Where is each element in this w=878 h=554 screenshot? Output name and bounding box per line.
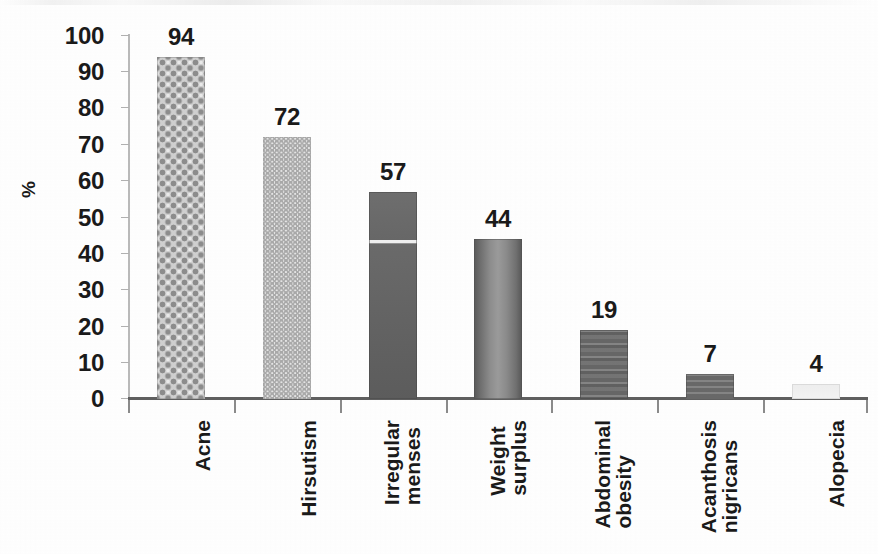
y-tick-60 — [121, 180, 129, 181]
y-label-80: 80 — [50, 94, 104, 122]
x-tick-3 — [446, 400, 448, 413]
y-tick-10 — [121, 362, 129, 363]
y-label-50: 50 — [50, 204, 104, 232]
y-label-70: 70 — [50, 131, 104, 159]
y-tick-20 — [121, 326, 129, 327]
x-tick-0 — [128, 400, 130, 413]
x-tick-1 — [234, 400, 236, 413]
category-label-irregular-menses-line1: Irregular — [380, 420, 403, 505]
bar-hirsutism-fill — [263, 137, 311, 399]
category-label-irregular-menses-line2: menses — [402, 420, 423, 505]
y-axis-title: % — [18, 181, 40, 198]
bar-abdominal-obesity-fill — [580, 330, 628, 399]
y-tick-70 — [121, 144, 129, 145]
category-label-irregular-menses: Irregular menses — [381, 420, 424, 505]
bar-weight-surplus: 44 — [474, 239, 522, 399]
y-label-10: 10 — [50, 349, 104, 377]
y-label-0: 0 — [50, 385, 104, 413]
x-tick-5 — [657, 400, 659, 413]
x-tick-2 — [340, 400, 342, 413]
bar-irregular-menses: 57 — [369, 192, 417, 400]
bar-value-abdominal-obesity: 19 — [591, 296, 617, 324]
x-tick-4 — [551, 400, 553, 413]
x-tick-6 — [763, 400, 765, 413]
bar-irregular-menses-fill — [369, 192, 417, 400]
category-label-acne-line1: Acne — [191, 420, 214, 471]
category-label-weight-surplus-line1: Weight — [486, 426, 509, 496]
bar-value-irregular-menses: 57 — [380, 158, 406, 186]
bar-abdominal-obesity: 19 — [580, 330, 628, 399]
bar-alopecia-fill — [792, 384, 840, 399]
category-label-acanthosis-nigricans-line1: Acanthosis — [697, 420, 720, 533]
category-label-weight-surplus-line2: surplus — [508, 420, 529, 496]
y-label-30: 30 — [50, 276, 104, 304]
bar-value-alopecia: 4 — [809, 350, 822, 378]
y-tick-50 — [121, 217, 129, 218]
y-tick-80 — [121, 107, 129, 108]
bar-acanthosis-nigricans-fill — [686, 374, 734, 400]
bar-acne: 94 — [157, 57, 205, 399]
category-label-acanthosis-nigricans-line2: nigricans — [719, 420, 740, 533]
bar-value-weight-surplus: 44 — [485, 205, 511, 233]
category-label-abdominal-obesity: Abdominal obesity — [592, 420, 635, 529]
bar-alopecia: 4 — [792, 384, 840, 399]
bar-hirsutism: 72 — [263, 137, 311, 399]
y-tick-100 — [121, 35, 129, 36]
category-label-abdominal-obesity-line1: Abdominal — [591, 420, 614, 529]
bar-value-hirsutism: 72 — [274, 103, 300, 131]
category-label-hirsutism-line1: Hirsutism — [297, 420, 320, 517]
y-tick-90 — [121, 71, 129, 72]
y-label-100: 100 — [50, 22, 104, 50]
bar-weight-surplus-fill — [474, 239, 522, 399]
category-label-alopecia-line1: Alopecia — [825, 420, 848, 508]
y-label-60: 60 — [50, 167, 104, 195]
bar-value-acne: 94 — [168, 23, 194, 51]
category-label-hirsutism: Hirsutism — [298, 420, 319, 517]
category-label-alopecia: Alopecia — [826, 420, 847, 508]
category-label-abdominal-obesity-line2: obesity — [613, 420, 634, 529]
y-tick-30 — [121, 289, 129, 290]
bar-chart: % 100 90 80 70 60 50 40 30 20 10 0 94 72… — [0, 0, 878, 554]
y-label-20: 20 — [50, 313, 104, 341]
y-label-40: 40 — [50, 240, 104, 268]
category-label-acanthosis-nigricans: Acanthosis nigricans — [698, 420, 741, 533]
y-label-90: 90 — [50, 58, 104, 86]
category-label-weight-surplus: Weight surplus — [487, 420, 530, 496]
bar-acanthosis-nigricans: 7 — [686, 374, 734, 400]
bar-acne-fill — [157, 57, 205, 399]
x-tick-7 — [866, 400, 868, 413]
y-tick-40 — [121, 253, 129, 254]
category-label-acne: Acne — [192, 420, 213, 471]
bar-value-acanthosis-nigricans: 7 — [703, 340, 716, 368]
